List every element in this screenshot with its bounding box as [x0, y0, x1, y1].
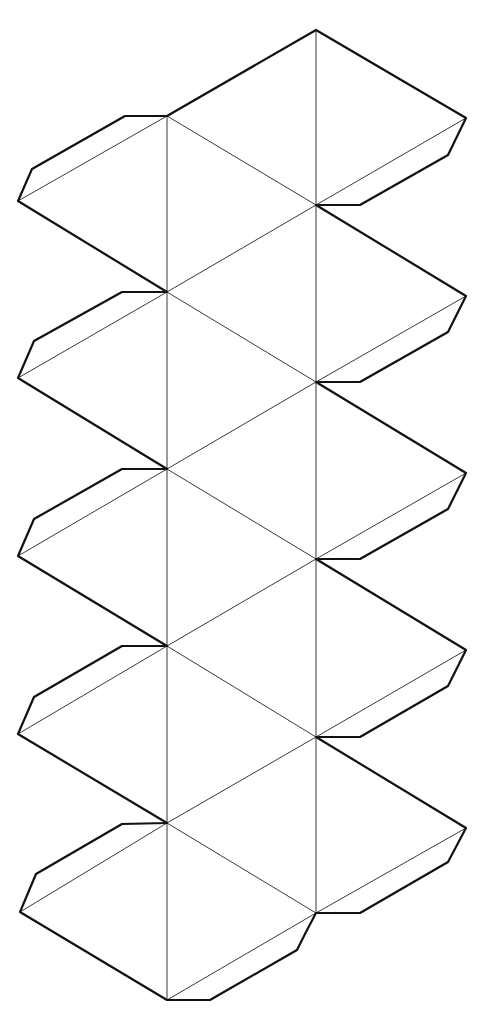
icosahedron-net-diagram: [0, 0, 486, 1023]
fold-line: [167, 116, 316, 205]
fold-line: [18, 292, 167, 378]
fold-line: [18, 646, 167, 734]
fold-line: [18, 469, 167, 556]
fold-line: [167, 559, 316, 646]
fold-line: [316, 118, 466, 205]
fold-line: [316, 650, 466, 737]
fold-line: [316, 473, 466, 559]
fold-line: [20, 823, 167, 912]
fold-line: [167, 913, 316, 1000]
fold-line: [316, 296, 466, 382]
fold-line: [167, 823, 316, 913]
fold-line: [167, 292, 316, 382]
fold-line: [167, 737, 316, 823]
fold-lines: [18, 30, 466, 1000]
fold-line: [167, 646, 316, 737]
fold-line: [167, 205, 316, 292]
fold-line: [18, 116, 167, 201]
cut-outline: [18, 30, 466, 1000]
fold-line: [167, 469, 316, 559]
fold-line: [167, 382, 316, 469]
fold-line: [316, 828, 466, 913]
